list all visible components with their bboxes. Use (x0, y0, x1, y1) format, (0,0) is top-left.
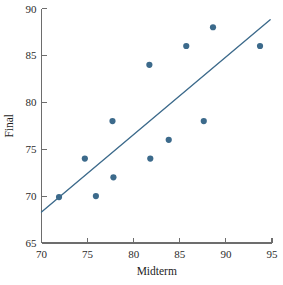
data-point (210, 24, 216, 30)
x-tick-label: 70 (36, 248, 48, 260)
plot-area: 657075808590 707580859095 Midterm Final (0, 0, 283, 285)
y-axis-ticks: 657075808590 (26, 3, 47, 250)
data-point (201, 118, 207, 124)
x-tick-label: 90 (220, 248, 232, 260)
data-point (109, 118, 115, 124)
axes-group (42, 9, 273, 244)
x-tick-label: 85 (174, 248, 186, 260)
y-tick-label: 90 (26, 3, 38, 15)
y-axis-title: Final (3, 114, 15, 138)
data-point (166, 137, 172, 143)
y-tick-label: 80 (26, 96, 38, 108)
data-point (183, 43, 189, 49)
y-tick-label: 70 (26, 190, 38, 202)
x-axis-ticks: 707580859095 (36, 238, 278, 260)
x-tick-label: 75 (82, 248, 94, 260)
data-point (146, 62, 152, 68)
regression-line-group (42, 20, 271, 212)
x-axis-title: Midterm (137, 265, 177, 277)
data-point (110, 174, 116, 180)
scatter-chart: 657075808590 707580859095 Midterm Final (0, 0, 283, 285)
x-tick-label: 80 (128, 248, 140, 260)
data-point (257, 43, 263, 49)
data-point (93, 193, 99, 199)
y-tick-label: 85 (26, 49, 38, 61)
data-point (56, 194, 62, 200)
data-point (147, 155, 153, 161)
x-tick-label: 95 (267, 248, 279, 260)
regression-line (42, 20, 271, 212)
data-point (82, 155, 88, 161)
y-tick-label: 75 (26, 143, 38, 155)
